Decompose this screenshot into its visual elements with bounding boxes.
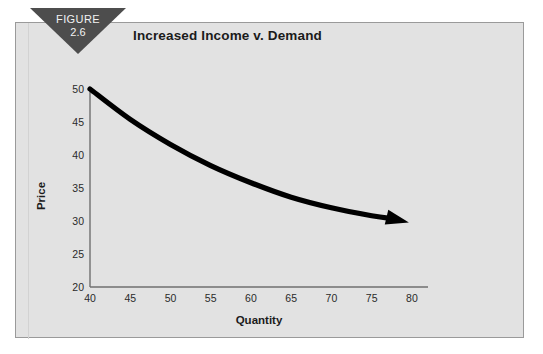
chart-title: Increased Income v. Demand <box>133 28 322 43</box>
panel-inner-rule <box>28 23 29 339</box>
figure-panel <box>15 22 524 338</box>
figure-number-tag: FIGURE 2.6 <box>30 8 126 54</box>
figure-tag-number: 2.6 <box>30 26 126 38</box>
figure-tag-label: FIGURE <box>30 13 126 25</box>
